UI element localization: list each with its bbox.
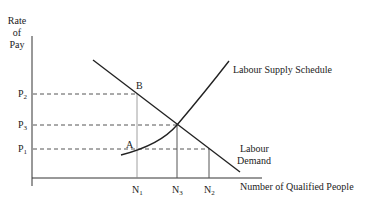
n2-label: N2 — [204, 184, 215, 199]
y-label-line3: Pay — [2, 39, 32, 51]
p3-label: P3 — [18, 119, 27, 134]
p1-label: P1 — [18, 143, 27, 158]
point-b-label: B — [136, 80, 143, 91]
demand-curve-label-2: Demand — [237, 155, 271, 166]
demand-curve — [93, 60, 240, 172]
y-label-line1: Rate — [2, 15, 32, 27]
p2-label: P2 — [18, 88, 27, 103]
point-a-label: A — [126, 139, 133, 150]
x-axis-label: Number of Qualified People — [240, 181, 354, 192]
labour-market-diagram — [0, 0, 369, 202]
n1-label: N1 — [132, 184, 143, 199]
n3-label: N3 — [172, 184, 183, 199]
supply-curve-label: Labour Supply Schedule — [233, 64, 332, 75]
y-axis-label: Rate of Pay — [2, 15, 32, 51]
demand-curve-label-1: Labour — [240, 143, 269, 154]
y-label-line2: of — [2, 27, 32, 39]
